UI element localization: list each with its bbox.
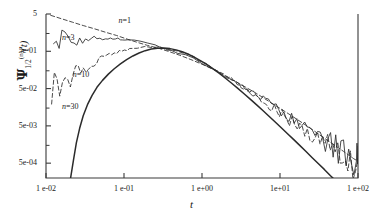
plot-frame: [46, 14, 358, 178]
series-annotation-n-10: n=10: [73, 70, 90, 79]
series-line-n-3: [54, 30, 358, 175]
x-tick-label: 1 e+02: [334, 184, 382, 193]
chart-root: Ψ1/2(n)(t) t 55e-015e-025e-035e-041 e-02…: [0, 0, 383, 219]
y-axis-label-subscript: 1/2: [24, 59, 33, 69]
series-annotation-n-1: n=1: [118, 16, 131, 25]
series-annotation-n-30: n=30: [62, 102, 79, 111]
x-tick-label: 1 e-01: [100, 184, 148, 193]
y-tick-label: 5e-04: [0, 158, 37, 167]
series-line-n-30: [70, 48, 358, 191]
series-line-n-10: [52, 46, 358, 179]
x-tick-label: 1 e-02: [22, 184, 70, 193]
y-tick-label: 5e-03: [0, 121, 37, 130]
series-annotation-n-3: n=3: [62, 33, 75, 42]
x-tick-label: 1 e+00: [178, 184, 226, 193]
y-tick-label: 5e-02: [0, 84, 37, 93]
y-tick-label: 5: [0, 9, 37, 18]
y-axis-label-symbol: Ψ: [15, 69, 30, 81]
x-axis-label: t: [0, 198, 383, 210]
y-tick-label: 5e-01: [0, 46, 37, 55]
x-tick-label: 1e+01: [256, 184, 304, 193]
